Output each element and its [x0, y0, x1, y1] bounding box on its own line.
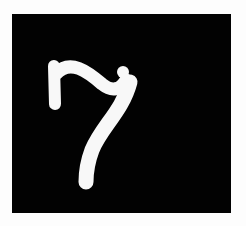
numeral-seven-glyph [12, 14, 231, 213]
black-panel: 7 [12, 14, 231, 213]
